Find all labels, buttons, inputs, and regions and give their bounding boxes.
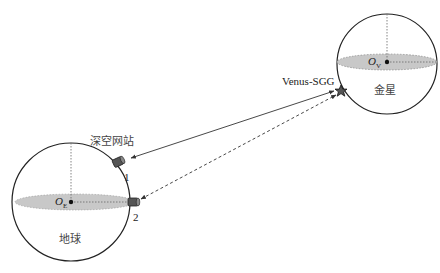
solid-link <box>131 91 334 158</box>
dashed-link <box>141 95 336 199</box>
station-1-label: 1 <box>124 172 130 183</box>
venus-origin-label: OV <box>368 56 381 70</box>
deep-space-station-label: 深空网站 <box>90 136 134 147</box>
venus-sphere <box>337 14 437 114</box>
earth-origin-label: OE <box>55 196 67 210</box>
station-2-antenna-icon <box>128 198 140 206</box>
venus-label: 金星 <box>374 85 396 96</box>
station-2-label: 2 <box>133 212 139 223</box>
satellite-label: Venus-SGG <box>282 76 335 87</box>
earth-label: 地球 <box>59 234 81 245</box>
station-1-antenna-icon <box>112 156 126 168</box>
